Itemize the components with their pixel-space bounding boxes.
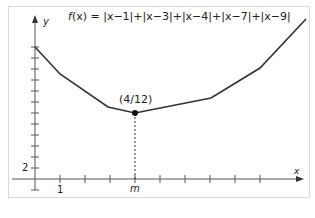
- x-tick-label-1: 1: [57, 184, 63, 195]
- min-point-marker: [132, 110, 138, 116]
- chart-plot: [0, 0, 315, 218]
- x-axis-label: x: [294, 166, 299, 176]
- x-axis-arrow-icon: [296, 176, 304, 182]
- x-tick-label-m: m: [130, 183, 140, 194]
- min-point-label: (4/12): [119, 93, 152, 106]
- y-tick-label-2: 2: [22, 162, 28, 173]
- y-axis-arrow-icon: [32, 15, 38, 23]
- function-curve: [35, 19, 306, 113]
- function-formula: f(x) = |x−1|+|x−3|+|x−4|+|x−7|+|x−9|: [68, 10, 291, 23]
- y-axis-label: y: [43, 16, 49, 27]
- formula-rest: (x) = |x−1|+|x−3|+|x−4|+|x−7|+|x−9|: [72, 10, 291, 23]
